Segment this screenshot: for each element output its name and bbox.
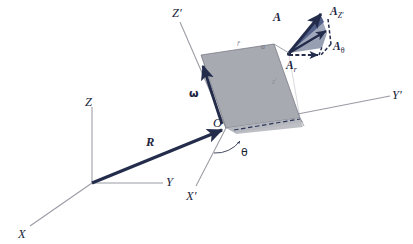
diagram-canvas [0, 0, 413, 244]
axis-label-Z-prime-letter: Z [172, 6, 179, 20]
plane-label-point-a: a [261, 43, 265, 51]
vector-label-A-theta-sub: θ [341, 46, 345, 55]
plane-label-r-bar: r̄ [237, 40, 240, 48]
vector-label-A-r-base: A [286, 59, 294, 71]
plane-label-z-prime: z′ [272, 78, 277, 86]
axis-X-prime-line [196, 128, 226, 186]
vector-label-A-r-sub: r [294, 65, 297, 74]
angle-label-theta: θ [241, 147, 248, 158]
fixed-frame-axes [30, 107, 163, 226]
vector-label-A-Zprime: AZ′ [330, 6, 343, 20]
axis-X-line [30, 183, 92, 226]
vector-label-A-Zprime-base: A [330, 5, 338, 17]
vector-label-A-theta: Aθ [333, 41, 345, 55]
vector-label-R: R [146, 136, 154, 149]
axis-label-X-prime-mark: ′ [194, 189, 197, 203]
axis-label-Y: Y [166, 176, 173, 189]
figure-root: Z Y X Z′ Y′ X′ O θ ω R A AZ′ Aθ Ar r̄ a … [0, 0, 413, 244]
vector-label-A-theta-base: A [333, 40, 341, 52]
axis-label-X: X [18, 228, 26, 241]
origin-label-O: O [213, 117, 222, 130]
axis-label-Z-prime-mark: ′ [179, 6, 182, 20]
construction-dash-right [328, 19, 331, 44]
vector-R-group [92, 130, 222, 183]
axis-label-X-prime-letter: X [186, 189, 194, 203]
vector-label-A: A [273, 11, 281, 23]
axis-label-X-prime: X′ [186, 190, 196, 203]
vector-R-shaft [92, 130, 222, 183]
vector-label-A-r: Ar [286, 60, 297, 74]
axis-label-Y-prime: Y′ [392, 89, 402, 102]
vector-label-omega: ω [189, 88, 199, 99]
vector-label-A-Zprime-sub: Z′ [338, 11, 344, 20]
axis-label-Y-prime-letter: Y [392, 88, 399, 102]
axis-label-Y-prime-mark: ′ [399, 88, 402, 102]
axis-label-Z-prime: Z′ [172, 7, 182, 20]
axis-label-Z: Z [85, 96, 92, 109]
